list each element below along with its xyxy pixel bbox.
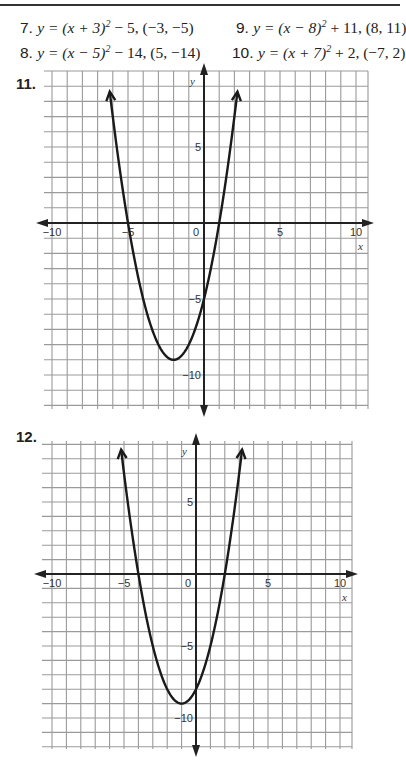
x-axis-label: x xyxy=(341,591,347,603)
x-tick-label: 5 xyxy=(265,577,271,589)
axes xyxy=(34,433,358,757)
y-axis-down-arrow-icon xyxy=(192,745,200,757)
y-axis-up-arrow-icon xyxy=(192,433,200,445)
x-tick-label: 0 xyxy=(185,577,191,589)
x-tick-label: −10 xyxy=(43,577,62,589)
x-tick-label: −5 xyxy=(118,577,131,589)
y-axis-label: y xyxy=(181,445,187,457)
y-tick-label: −10 xyxy=(174,712,193,724)
x-tick-label: 10 xyxy=(334,577,346,589)
y-tick-label: −5 xyxy=(180,640,193,652)
y-tick-label: 5 xyxy=(187,496,193,508)
